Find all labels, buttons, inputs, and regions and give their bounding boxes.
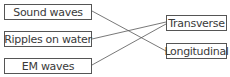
right-item-label: Longitudinal [164, 45, 228, 58]
right-item-longitudinal: Longitudinal [166, 43, 227, 59]
left-item-sound-waves: Sound waves [4, 4, 92, 20]
right-item-label: Transverse [168, 17, 224, 30]
connector-sound-to-longitudinal [92, 11, 166, 51]
left-item-label: Sound waves [13, 6, 83, 19]
left-item-em-waves: EM waves [4, 58, 92, 74]
left-item-ripples-on-water: Ripples on water [4, 31, 92, 47]
left-item-label: EM waves [22, 60, 74, 73]
right-item-transverse: Transverse [166, 15, 227, 31]
left-item-label: Ripples on water [4, 33, 91, 46]
